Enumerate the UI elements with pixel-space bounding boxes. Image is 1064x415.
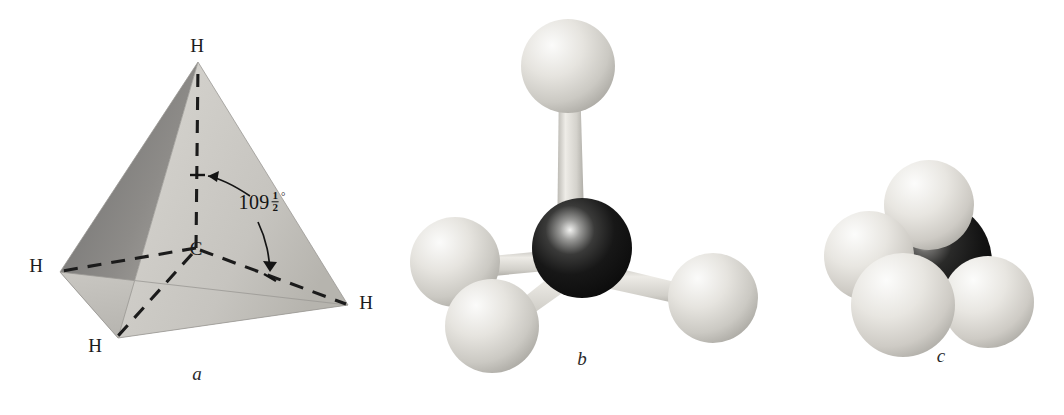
panel-letter-c: c <box>937 345 945 367</box>
carbon-sphere <box>532 198 632 298</box>
atom-label-h-right: H <box>359 293 373 312</box>
atom-label-h-top: H <box>190 36 204 55</box>
fraction-denominator: 2 <box>272 203 280 214</box>
degree-symbol: ° <box>281 190 285 202</box>
atom-label-h-front: H <box>88 336 102 355</box>
panel-a-tetrahedron: H H H H C 109 1 2 ° a <box>0 0 400 415</box>
panel-c-space-filling: c <box>800 0 1064 415</box>
bond-angle-label: 109 1 2 ° <box>239 191 286 214</box>
panel-b-ball-and-stick: b <box>400 0 780 415</box>
hydrogen-sphere-front <box>851 253 955 357</box>
bond-angle-fraction: 1 2 <box>272 190 280 213</box>
tetrahedron-drawing <box>0 0 400 415</box>
bond-angle-value: 109 <box>239 192 270 215</box>
figure-canvas: H H H H C 109 1 2 ° a <box>0 0 1064 415</box>
hydrogen-sphere-top <box>521 19 615 113</box>
hydrogen-sphere-right <box>942 256 1034 348</box>
space-filling-drawing <box>800 0 1064 415</box>
panel-letter-b: b <box>577 348 587 370</box>
hydrogen-sphere-right <box>668 253 758 343</box>
atom-label-c-center: C <box>190 239 203 258</box>
panel-letter-a: a <box>192 363 202 385</box>
ball-stick-drawing <box>400 0 780 415</box>
atom-label-h-left: H <box>29 256 43 275</box>
hydrogen-sphere-front-bottom <box>445 279 539 373</box>
